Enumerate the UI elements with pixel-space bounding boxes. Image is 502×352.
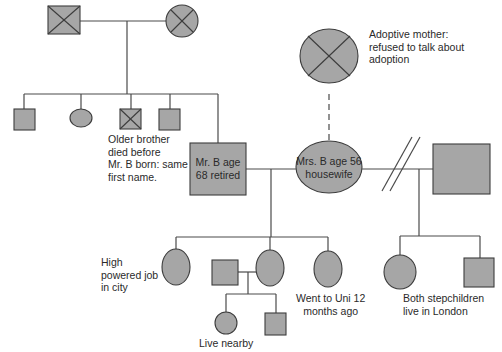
daughter-3-annotation: Went to Uni 12 months ago (296, 292, 365, 317)
daughter-1-symbol (162, 249, 190, 285)
older-brother-annotation: Older brother died before Mr. B born: sa… (108, 133, 188, 183)
stepchildren-line (400, 236, 480, 258)
stepchildren-annotation: Both stepchildren live in London (403, 292, 484, 317)
daughters-line (176, 237, 328, 251)
daughter-2-symbol (256, 250, 284, 286)
stepchild-2-symbol (464, 258, 494, 287)
ex-partner-symbol (433, 144, 490, 194)
sibling-1-symbol (14, 109, 35, 130)
grandchildren-annotation: Live nearby (199, 337, 253, 350)
grandfather-symbol (48, 6, 80, 34)
adoptive-mother-annotation: Adoptive mother: refused to talk about a… (369, 28, 464, 66)
divorce-slash-marks (382, 137, 420, 191)
grandparents-marriage-line (80, 21, 166, 94)
grandchild-1-symbol (215, 312, 237, 334)
mrs-b-label: Mrs. B age 56 housewife (292, 155, 366, 180)
sibling-4-symbol (159, 109, 180, 130)
adoptive-mother-symbol (300, 29, 358, 83)
sibling-2-symbol (70, 109, 92, 127)
grandmother-symbol (166, 5, 198, 37)
mr-b-label: Mr. B age 68 retired (190, 156, 246, 181)
older-brother-symbol (120, 109, 141, 129)
daughter-3-symbol (314, 251, 342, 287)
daughter-1-annotation: High powered job in city (101, 256, 158, 294)
grandchild-2-symbol (265, 313, 286, 335)
daughter-2-partner-symbol (212, 260, 238, 285)
stepchild-1-symbol (384, 255, 416, 289)
